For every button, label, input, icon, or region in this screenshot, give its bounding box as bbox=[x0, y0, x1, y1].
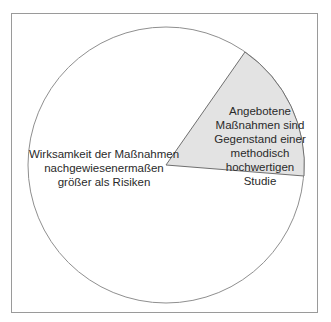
main-label-line: nachgewiesenermaßen bbox=[20, 161, 188, 175]
slice-label-line: Studie bbox=[200, 174, 320, 188]
slice-label-line: Angebotene bbox=[200, 104, 320, 118]
highlight-slice-label: Angebotene Maßnahmen sind Gegenstand ein… bbox=[200, 104, 320, 188]
slice-label-line: methodisch hochwertigen bbox=[200, 146, 320, 174]
slice-label-line: Gegenstand einer bbox=[200, 132, 320, 146]
main-slice-label: Wirksamkeit der Maßnahmen nachgewiesener… bbox=[20, 147, 188, 189]
main-label-line: Wirksamkeit der Maßnahmen bbox=[20, 147, 188, 161]
slice-label-line: Maßnahmen sind bbox=[200, 118, 320, 132]
main-label-line: größer als Risiken bbox=[20, 175, 188, 189]
